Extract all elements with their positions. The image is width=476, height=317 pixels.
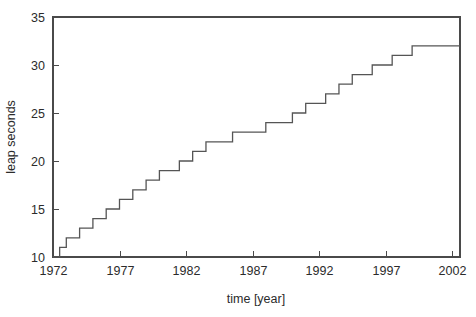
y-axis-ticks <box>53 18 59 258</box>
x-axis-ticks <box>54 251 453 257</box>
y-axis-tick-labels: 101520253035 <box>31 11 45 265</box>
x-tick-label: 1972 <box>40 264 68 278</box>
x-tick-label: 1982 <box>173 264 201 278</box>
y-axis-title: leap seconds <box>4 100 18 174</box>
x-axis-title: time [year] <box>227 292 285 306</box>
y-tick-label: 10 <box>31 251 45 265</box>
x-tick-label: 1987 <box>240 264 268 278</box>
y-tick-label: 35 <box>31 11 45 25</box>
x-tick-label: 1977 <box>107 264 135 278</box>
y-tick-label: 20 <box>31 155 45 169</box>
y-tick-label: 15 <box>31 203 45 217</box>
plot-frame <box>53 17 460 257</box>
y-tick-label: 30 <box>31 59 45 73</box>
x-tick-label: 1997 <box>373 264 401 278</box>
x-axis-tick-labels: 1972197719821987199219972002 <box>40 264 467 278</box>
chart-figure: 1972197719821987199219972002 10152025303… <box>0 0 476 317</box>
x-tick-label: 1992 <box>306 264 334 278</box>
leap-seconds-step-chart: 1972197719821987199219972002 10152025303… <box>0 0 476 317</box>
leap-seconds-data-line <box>53 46 460 257</box>
y-tick-label: 25 <box>31 107 45 121</box>
x-tick-label: 2002 <box>439 264 467 278</box>
